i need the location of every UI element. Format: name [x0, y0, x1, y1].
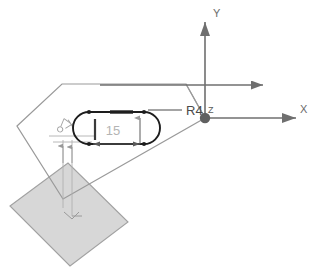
technical-drawing-canvas: 15 R4 Y X Z [0, 0, 320, 279]
length-dimension-label: 15 [106, 123, 120, 138]
slot-endpoint-dot-bottom-left [87, 142, 91, 146]
x-axis-label: X [300, 103, 308, 115]
z-axis-label: Z [208, 105, 214, 115]
rotated-filled-square [10, 163, 128, 266]
slot-endpoint-dot-top-right [142, 110, 146, 114]
y-axis-label: Y [213, 7, 221, 19]
slot-endpoint-dot-bottom-right [142, 142, 146, 146]
radius-label: R4 [186, 103, 203, 118]
slot-endpoint-dot-top-left [87, 110, 91, 114]
drawing-svg: 15 R4 Y X Z [0, 0, 320, 279]
small-callout-annotation [54, 116, 74, 134]
